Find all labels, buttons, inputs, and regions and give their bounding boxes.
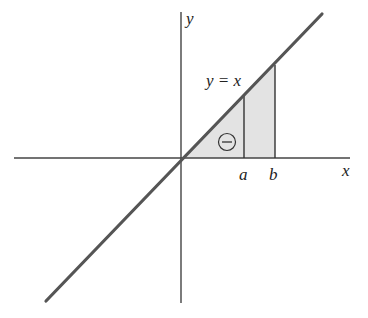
y-axis-label: y: [184, 9, 194, 28]
point-a-label: a: [239, 165, 248, 184]
x-axis-label: x: [341, 161, 350, 180]
line-label: y = x: [204, 71, 242, 90]
point-b-label: b: [269, 165, 278, 184]
integral-diagram: y x y = x a b: [0, 0, 368, 318]
